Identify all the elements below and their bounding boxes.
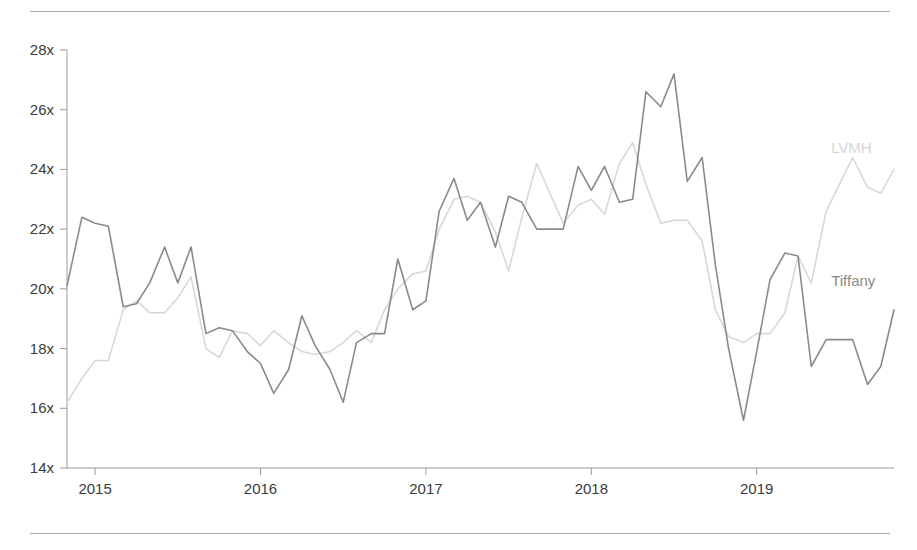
x-axis-ticks: 20152016201720182019	[78, 468, 773, 497]
x-tick-label: 2015	[78, 480, 111, 497]
series-line-tiffany	[67, 74, 894, 420]
series-labels: LVMHTiffany	[831, 139, 876, 289]
series-label-lvmh: LVMH	[831, 139, 872, 156]
y-axis-ticks: 14x16x18x20x22x24x26x28x	[30, 41, 67, 476]
x-tick-label: 2018	[575, 480, 608, 497]
y-tick-label: 24x	[30, 160, 55, 177]
y-tick-label: 14x	[30, 459, 55, 476]
y-tick-label: 20x	[30, 280, 55, 297]
series-lines	[67, 74, 894, 420]
y-tick-label: 22x	[30, 220, 55, 237]
x-tick-label: 2016	[244, 480, 277, 497]
x-tick-label: 2017	[409, 480, 442, 497]
y-tick-label: 28x	[30, 41, 55, 58]
y-tick-label: 26x	[30, 101, 55, 118]
x-tick-label: 2019	[740, 480, 773, 497]
chart-canvas: 14x16x18x20x22x24x26x28x 201520162017201…	[0, 0, 917, 550]
series-line-lvmh	[67, 143, 894, 403]
series-label-tiffany: Tiffany	[831, 272, 876, 289]
y-tick-label: 16x	[30, 399, 55, 416]
y-tick-label: 18x	[30, 340, 55, 357]
line-chart: 14x16x18x20x22x24x26x28x 201520162017201…	[0, 0, 917, 550]
